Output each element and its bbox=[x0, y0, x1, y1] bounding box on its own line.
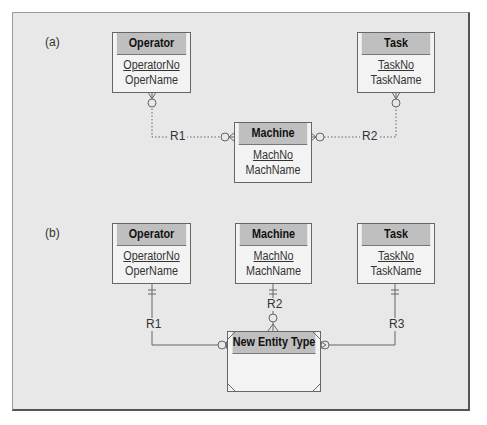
attribute: MachName bbox=[240, 264, 308, 279]
entity-task-a[interactable]: Task TaskNo TaskName bbox=[357, 32, 435, 93]
r1-a-line bbox=[152, 105, 229, 137]
entity-operator-b[interactable]: Operator OperatorNo OperName bbox=[112, 223, 191, 284]
attribute: MachName bbox=[239, 163, 307, 178]
primary-key: TaskNo bbox=[362, 249, 430, 264]
entity-name: Machine bbox=[239, 123, 307, 145]
entity-machine-b[interactable]: Machine MachNo MachName bbox=[235, 223, 312, 284]
entity-name: Operator bbox=[117, 33, 186, 55]
entity-name: Task bbox=[362, 224, 430, 246]
part-a-label: (a) bbox=[45, 35, 60, 49]
attribute: OperName bbox=[117, 264, 186, 279]
entity-new-entity-type[interactable]: New Entity Type bbox=[227, 331, 321, 392]
entity-name: Operator bbox=[117, 224, 186, 246]
primary-key: MachNo bbox=[240, 249, 308, 264]
primary-key: OperatorNo bbox=[117, 249, 186, 264]
associative-entity-corner-marks bbox=[227, 331, 321, 392]
entity-task-b[interactable]: Task TaskNo TaskName bbox=[357, 223, 435, 284]
primary-key: OperatorNo bbox=[117, 58, 186, 73]
relationship-r1-b: R1 bbox=[144, 318, 163, 331]
relationship-r2-b: R2 bbox=[265, 298, 284, 311]
attribute: OperName bbox=[117, 73, 186, 88]
entity-name: Task bbox=[362, 33, 430, 55]
primary-key: TaskNo bbox=[362, 58, 430, 73]
part-b-label: (b) bbox=[45, 226, 60, 240]
attribute: TaskName bbox=[362, 264, 430, 279]
entity-machine-a[interactable]: Machine MachNo MachName bbox=[234, 122, 312, 183]
primary-key: MachNo bbox=[239, 148, 307, 163]
relationship-r2-a: R2 bbox=[360, 130, 379, 143]
relationship-r3-b: R3 bbox=[387, 318, 406, 331]
attribute: TaskName bbox=[362, 73, 430, 88]
relationship-r1-a: R1 bbox=[168, 130, 187, 143]
r1-b-line bbox=[152, 283, 218, 345]
r3-b-line bbox=[329, 283, 395, 345]
entity-operator-a[interactable]: Operator OperatorNo OperName bbox=[112, 32, 191, 93]
entity-name: Machine bbox=[240, 224, 308, 246]
